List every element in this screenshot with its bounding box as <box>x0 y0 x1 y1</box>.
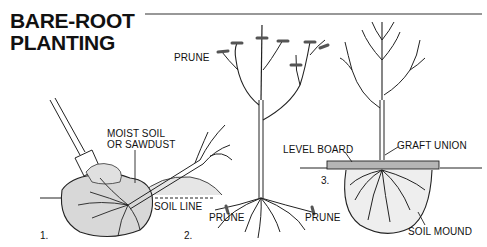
step-number-1: 1. <box>40 230 48 241</box>
title-line-1: BARE-ROOT <box>10 10 134 32</box>
label-soil-mound: SOIL MOUND <box>408 226 472 237</box>
label-prune-root-right: PRUNE <box>305 212 341 223</box>
diagram-title: BARE-ROOT PLANTING <box>10 10 134 54</box>
label-prune-root-left: PRUNE <box>209 212 245 223</box>
title-line-2: PLANTING <box>10 32 134 54</box>
label-moist-soil: MOIST SOIL <box>107 128 165 139</box>
label-soil-line: SOIL LINE <box>154 201 202 212</box>
label-or-sawdust: OR SAWDUST <box>107 139 175 150</box>
step1-illustration <box>40 98 232 237</box>
label-level-board: LEVEL BOARD <box>283 144 353 155</box>
step2-illustration <box>215 25 328 238</box>
bare-root-planting-diagram: BARE-ROOT PLANTING MOIST SOIL OR SAWDUST… <box>0 0 487 247</box>
label-prune-top: PRUNE <box>174 52 210 63</box>
label-graft-union: GRAFT UNION <box>397 140 467 151</box>
step-number-2: 2. <box>184 230 192 241</box>
step3-illustration <box>300 22 482 233</box>
step-number-3: 3. <box>321 175 329 186</box>
